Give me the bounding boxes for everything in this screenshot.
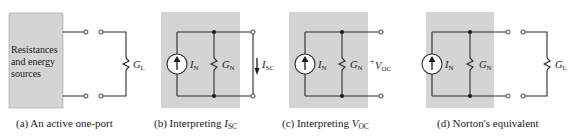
terminal-icon xyxy=(506,30,510,34)
terminal-icon xyxy=(379,30,383,34)
load-label: GL xyxy=(133,59,145,72)
terminal-icon xyxy=(251,30,255,34)
voc-label: VOC xyxy=(375,60,391,73)
caption-c: (c) Interpreting VOC xyxy=(282,117,369,131)
node-dot-icon xyxy=(468,94,472,98)
caption-a: (a) An active one-port xyxy=(16,117,113,129)
load-label: GL xyxy=(555,59,567,72)
node-dot-icon xyxy=(468,30,472,34)
panel-c-interpreting-voc: IN GN + VOC xyxy=(289,12,391,108)
node-dot-icon xyxy=(212,30,216,34)
terminal-icon xyxy=(251,94,255,98)
terminal-icon xyxy=(506,94,510,98)
terminal-icon xyxy=(521,94,525,98)
caption-d: (d) Norton's equivalent xyxy=(437,117,539,129)
terminal-icon xyxy=(99,94,103,98)
caption-b: (b) Interpreting ISC xyxy=(154,117,237,131)
box-text-line1: Resistances xyxy=(11,44,58,55)
terminal-icon xyxy=(521,30,525,34)
terminal-icon xyxy=(379,94,383,98)
box-text-line2: and energy xyxy=(11,56,55,67)
isc-arrowhead-icon xyxy=(255,68,260,75)
terminal-icon xyxy=(84,94,88,98)
resistor-icon xyxy=(544,58,550,70)
terminal-icon xyxy=(84,30,88,34)
norton-diagram: Resistances and energy sources GL IN GN … xyxy=(0,0,576,136)
port-wires xyxy=(63,32,84,96)
node-dot-icon xyxy=(340,30,344,34)
panel-a-active-one-port: Resistances and energy sources GL xyxy=(9,13,145,108)
node-dot-icon xyxy=(340,94,344,98)
terminal-icon xyxy=(99,30,103,34)
box-text-line3: sources xyxy=(11,68,41,79)
panel-d-nortons-equivalent: IN GN GL xyxy=(422,12,567,108)
panel-b-interpreting-isc: IN GN ISC xyxy=(161,12,274,108)
resistor-icon xyxy=(123,58,129,70)
node-dot-icon xyxy=(212,94,216,98)
isc-label: ISC xyxy=(261,59,274,72)
